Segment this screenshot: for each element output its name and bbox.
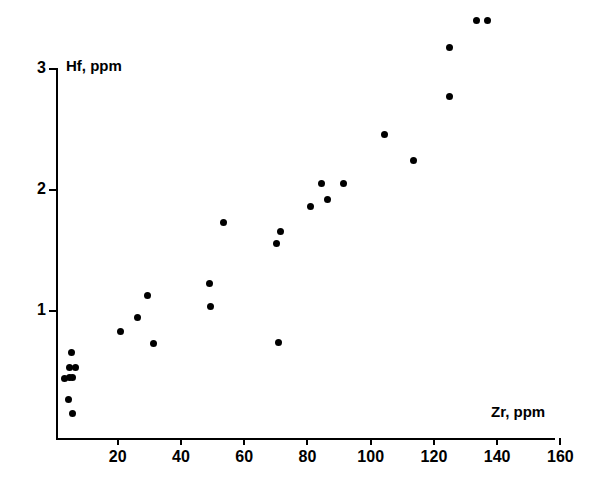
- data-point: [68, 349, 75, 356]
- data-point: [206, 280, 213, 287]
- y-tick-mark: [49, 189, 56, 191]
- x-tick-label: 60: [224, 448, 264, 466]
- data-point: [220, 219, 227, 226]
- data-point: [207, 303, 214, 310]
- x-tick-label: 80: [287, 448, 327, 466]
- data-point: [144, 292, 151, 299]
- x-tick-mark: [117, 438, 119, 445]
- data-point: [150, 340, 157, 347]
- x-tick-label: 140: [477, 448, 517, 466]
- x-tick-label: 120: [414, 448, 454, 466]
- x-tick-mark: [559, 438, 561, 445]
- data-point: [446, 93, 453, 100]
- data-point: [117, 328, 124, 335]
- y-axis-line: [56, 68, 58, 440]
- x-tick-mark: [433, 438, 435, 445]
- y-tick-label: 1: [22, 301, 46, 319]
- data-point: [72, 364, 79, 371]
- y-axis-title: Hf, ppm: [66, 57, 122, 74]
- x-tick-label: 40: [161, 448, 201, 466]
- data-point: [318, 180, 325, 187]
- x-tick-label: 20: [98, 448, 138, 466]
- x-tick-mark: [180, 438, 182, 445]
- y-tick-mark: [49, 310, 56, 312]
- y-tick-label: 3: [22, 59, 46, 77]
- x-axis-title: Zr, ppm: [491, 403, 545, 420]
- x-tick-mark: [306, 438, 308, 445]
- x-tick-label: 160: [540, 448, 580, 466]
- x-tick-mark: [496, 438, 498, 445]
- data-point: [473, 17, 480, 24]
- x-tick-mark: [243, 438, 245, 445]
- y-tick-mark: [49, 68, 56, 70]
- data-point: [69, 410, 76, 417]
- data-point: [381, 131, 388, 138]
- scatter-plot-figure: Hf, ppm Zr, ppm 123 20406080100120140160: [0, 0, 599, 484]
- x-tick-label: 100: [351, 448, 391, 466]
- data-point: [324, 196, 331, 203]
- data-point: [273, 240, 280, 247]
- data-point: [446, 44, 453, 51]
- data-point: [275, 339, 282, 346]
- data-point: [340, 180, 347, 187]
- x-tick-mark: [370, 438, 372, 445]
- data-point: [134, 314, 141, 321]
- data-point: [277, 228, 284, 235]
- data-point: [410, 157, 417, 164]
- data-point: [307, 203, 314, 210]
- data-point: [484, 17, 491, 24]
- data-point: [69, 374, 76, 381]
- y-tick-label: 2: [22, 180, 46, 198]
- data-point: [65, 396, 72, 403]
